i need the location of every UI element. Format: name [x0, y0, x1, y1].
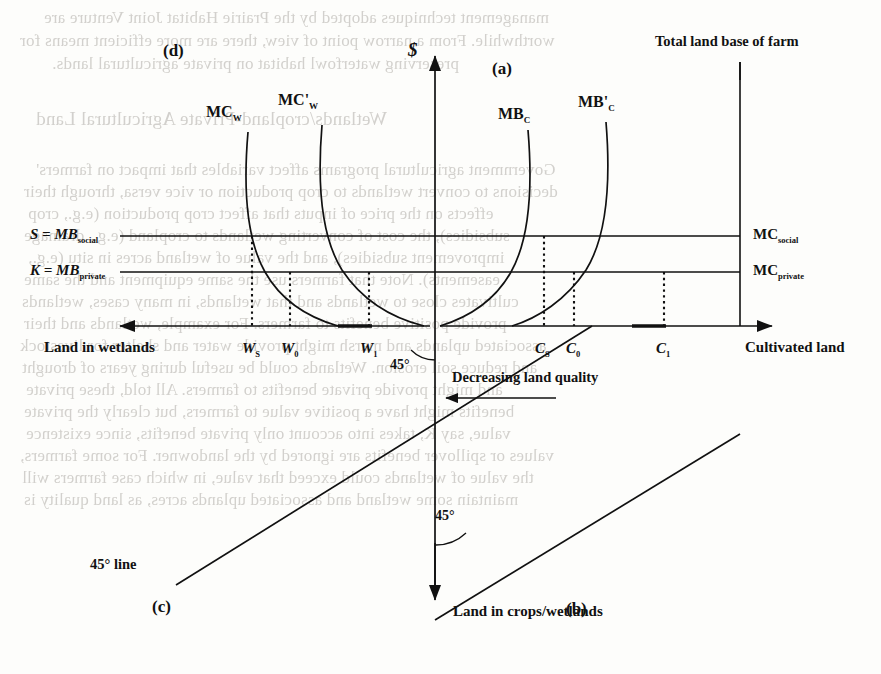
angle-label-upper: 45°: [390, 358, 410, 372]
axis-label-land-in-crops-wetlands: Land in crops/wetlands: [453, 604, 603, 619]
tick-label-cs-sub: S: [545, 349, 550, 359]
tick-label-w1-sub: 1: [373, 349, 377, 359]
tick-label-c1: C1: [656, 341, 670, 359]
tick-label-w0-base: W: [281, 340, 294, 356]
curve-label-mc-w-prime: MC'W: [278, 92, 318, 111]
tick-label-c0-base: C: [566, 340, 576, 356]
annotation-45-degree-line: 45° line: [90, 557, 136, 572]
label-mb-social-sub: social: [78, 235, 98, 245]
label-mb-social-prefix: S = MB: [30, 226, 78, 242]
label-mb-private-prefix: K = MB: [30, 262, 79, 278]
curve-label-mb-c-prime-sub: C: [608, 103, 615, 113]
curve-label-mc-w: MCW: [206, 104, 242, 123]
curve-label-mb-c-sub: C: [524, 115, 531, 125]
axis-label-cultivated-land: Cultivated land: [745, 340, 845, 355]
tick-label-ws-sub: S: [255, 349, 260, 359]
label-mc-private: MCprivate: [753, 263, 804, 281]
curve-mb-c: [440, 130, 530, 326]
curve-label-mc-w-sub: W: [233, 113, 242, 123]
panel-label-a: (a): [492, 60, 512, 77]
label-mb-private: K = MBprivate: [30, 263, 105, 281]
curve-mc-w: [246, 132, 338, 326]
total-land-base-note: Total land base of farm: [655, 34, 799, 49]
vertical-axis-label: $: [408, 40, 418, 59]
label-mc-social-prefix: MC: [753, 226, 778, 242]
label-mb-social: S = MBsocial: [30, 227, 98, 245]
curve-label-mb-c-prime-base: MB': [578, 93, 608, 110]
curve-mc-w-prime: [320, 125, 424, 326]
tick-label-ws-base: W: [242, 340, 255, 356]
curve-label-mb-c: MBC: [498, 106, 530, 125]
tick-label-w1: W1: [360, 341, 378, 359]
tick-label-c1-base: C: [656, 340, 666, 356]
angle-arc-lower: [435, 533, 466, 545]
figure-canvas: management techniques adopted by the Pra…: [0, 0, 881, 674]
curve-label-mc-w-prime-base: MC': [278, 91, 309, 108]
tick-label-cs-base: C: [535, 340, 545, 356]
label-mb-private-sub: private: [79, 271, 105, 281]
tick-label-c0-sub: 0: [576, 349, 580, 359]
curve-label-mc-w-prime-sub: W: [309, 101, 318, 111]
label-mc-private-sub: private: [778, 271, 804, 281]
tick-label-ws: WS: [242, 341, 260, 359]
tick-label-w0: W0: [281, 341, 299, 359]
axis-label-land-in-wetlands: Land in wetlands: [44, 340, 155, 355]
forty-five-degree-line: [176, 326, 592, 585]
tick-label-c1-sub: 1: [666, 349, 670, 359]
label-mc-social-sub: social: [778, 235, 798, 245]
curve-label-mb-c-base: MB: [498, 105, 524, 122]
four-quadrant-diagram-svg: [0, 0, 881, 674]
angle-label-lower: 45°: [435, 509, 455, 523]
annotation-decreasing-land-quality: Decreasing land quality: [452, 370, 598, 385]
label-mc-social: MCsocial: [753, 227, 798, 245]
curve-label-mc-w-base: MC: [206, 103, 233, 120]
curve-label-mb-c-prime: MB'C: [578, 94, 615, 113]
tick-label-w0-sub: 0: [294, 349, 298, 359]
panel-label-d: (d): [163, 42, 184, 59]
panel-label-c: (c): [152, 598, 171, 615]
tick-label-c0: C0: [566, 341, 580, 359]
tick-label-cs: CS: [535, 341, 550, 359]
label-mc-private-prefix: MC: [753, 262, 778, 278]
forty-five-degree-line-lower-right: [435, 434, 740, 620]
tick-label-w1-base: W: [360, 340, 373, 356]
angle-arc-upper: [411, 350, 435, 360]
